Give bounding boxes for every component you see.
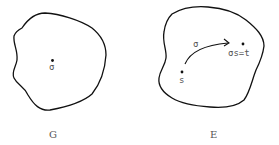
figure-G: σ G (13, 13, 106, 140)
point-sigma-label: σ (49, 62, 54, 72)
caption-G: G (49, 129, 57, 140)
mapping-arrow (185, 43, 228, 64)
figure-E: s σ σs=t E (159, 7, 264, 140)
diagram-canvas: σ G s σ σs=t E (0, 0, 279, 145)
caption-E: E (210, 129, 217, 140)
target-point-label: σs=t (228, 48, 250, 58)
target-point-dot (242, 43, 245, 46)
source-point-label: s (179, 75, 184, 85)
arrowhead-icon (224, 39, 229, 46)
source-point-dot (181, 71, 184, 74)
arrow-sigma-label: σ (193, 39, 198, 49)
region-G-outline (13, 13, 106, 110)
